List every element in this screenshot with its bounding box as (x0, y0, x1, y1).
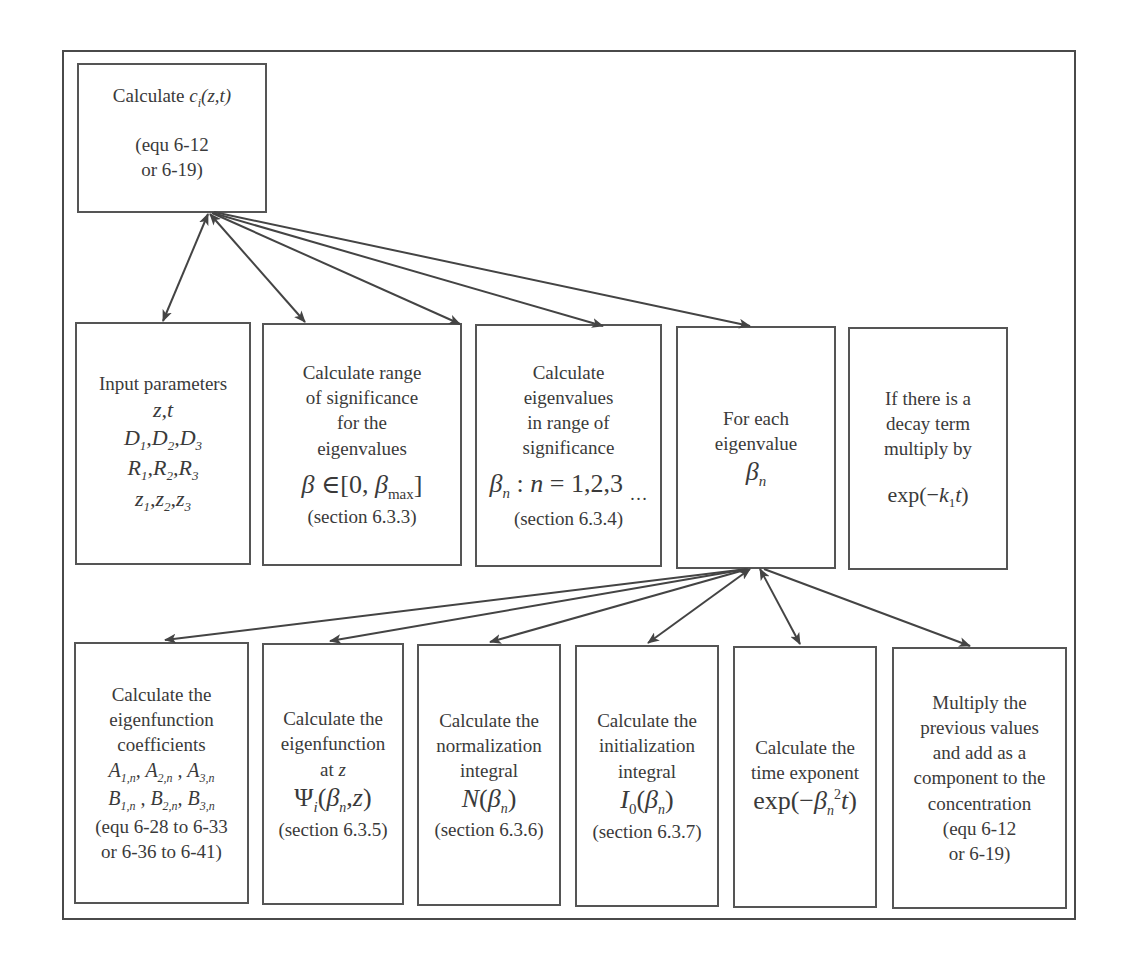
multiply-and-add-box: Multiply the previous values and add as … (892, 647, 1067, 909)
coefficients-b: B1,n , B2,n, B3,n (108, 786, 215, 814)
box-label-line: integral (460, 758, 518, 783)
box-label-line: for the (337, 410, 387, 435)
box-label-line: of significance (306, 385, 418, 410)
section-ref: (section 6.3.4) (514, 506, 623, 531)
eigenfunction-at-z-box: Calculate the eigenfunction at z Ψi(βn,z… (262, 643, 404, 905)
top-box-title: Calculate ci(z,t)Calculate ci(z,t) (113, 83, 231, 112)
box-label-line: eigenfunction (281, 731, 385, 756)
section-ref: (section 6.3.7) (592, 819, 701, 844)
box-label-line: Calculate the (112, 682, 212, 707)
time-exponent-formula: exp(−βn2t) (753, 785, 857, 820)
calculate-concentration-box: Calculate ci(z,t)Calculate ci(z,t) (equ … (77, 63, 267, 213)
box-label-line: Multiply the (932, 690, 1026, 715)
param-zt: z,t (153, 396, 173, 424)
box-label-line: Calculate the (439, 708, 539, 733)
box-label-line: concentration (928, 791, 1031, 816)
eigenfunction-formula: Ψi(βn,z) (294, 782, 371, 817)
initialization-integral-box: Calculate the initialization integral I0… (575, 645, 719, 907)
box-label-line: at z (320, 757, 346, 782)
box-label-line: Calculate range (303, 360, 422, 385)
equation-ref: (equ 6-28 to 6-33 (95, 814, 227, 839)
box-label-line: in range of (527, 410, 609, 435)
box-label-line: initialization (599, 733, 695, 758)
box-label-line: Calculate the (597, 708, 697, 733)
decay-term-box: If there is a decay term multiply by exp… (848, 327, 1008, 570)
box-label-line: eigenfunction (109, 707, 213, 732)
eigenvalues-formula: βn : n = 1,2,3 … (490, 468, 648, 506)
initialization-formula: I0(βn) (620, 784, 673, 819)
equation-ref: or 6-36 to 6-41) (101, 839, 222, 864)
box-label-line: time exponent (751, 760, 859, 785)
section-ref: (section 6.3.5) (278, 817, 387, 842)
box-label-line: eigenvalues (317, 436, 407, 461)
coefficients-a: A1,n, A2,n , A3,n (109, 758, 215, 786)
box-label-line: coefficients (117, 732, 205, 757)
box-label-line: eigenvalues (524, 385, 614, 410)
range-of-significance-box: Calculate range of significance for the … (262, 323, 462, 566)
box-label-line: If there is a (885, 386, 971, 411)
normalization-integral-box: Calculate the normalization integral N(β… (417, 644, 561, 906)
beta-range-formula: β ∈[0, βmax] (302, 469, 423, 504)
box-label: Input parameters (99, 371, 227, 396)
box-label-line: and add as a (933, 740, 1026, 765)
param-z: z1,z2,z3 (135, 485, 191, 516)
box-label-line: decay term (886, 411, 970, 436)
box-label-line: integral (618, 759, 676, 784)
param-d: D1,D2,D3 (124, 424, 202, 455)
time-exponent-box: Calculate the time exponent exp(−βn2t) (733, 646, 877, 908)
box-label-line: eigenvalue (715, 431, 797, 456)
box-label-line: previous values (920, 715, 1039, 740)
box-label-line: significance (523, 435, 615, 460)
eigenfunction-coefficients-box: Calculate the eigenfunction coefficients… (74, 642, 249, 904)
box-label-line: For each (723, 406, 789, 431)
section-ref: (section 6.3.6) (434, 817, 543, 842)
box-label-line: Calculate the (755, 735, 855, 760)
box-label-line: component to the (914, 765, 1046, 790)
equation-ref: or 6-19) (949, 841, 1011, 866)
box-label-line: normalization (436, 733, 542, 758)
input-parameters-box: Input parameters z,t D1,D2,D3 R1,R2,R3 z… (75, 322, 251, 565)
for-each-eigenvalue-box: For each eigenvalue βn (676, 326, 836, 569)
beta-n-symbol: βn (746, 456, 766, 491)
decay-formula: exp(−k1t) (887, 481, 968, 512)
section-ref: (section 6.3.3) (307, 504, 416, 529)
top-box-ref-line2: or 6-19) (141, 157, 203, 182)
normalization-formula: N(βn) (462, 783, 517, 818)
param-r: R1,R2,R3 (128, 454, 199, 485)
equation-ref: (equ 6-12 (943, 816, 1016, 841)
box-label-line: multiply by (884, 436, 972, 461)
eigenvalues-box: Calculate eigenvalues in range of signif… (475, 324, 662, 567)
box-label-line: Calculate the (283, 706, 383, 731)
top-box-ref-line1: (equ 6-12 (135, 132, 208, 157)
box-label-line: Calculate (533, 360, 605, 385)
